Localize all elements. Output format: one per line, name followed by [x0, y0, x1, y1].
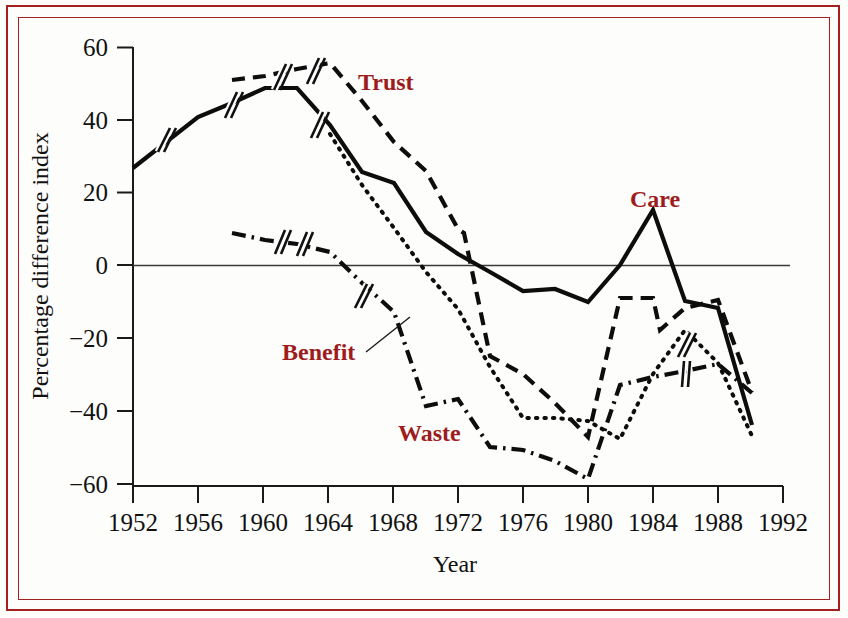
series-label-trust: Trust — [358, 69, 414, 95]
axis-break-marks — [158, 58, 696, 387]
x-tick-label: 1980 — [563, 509, 613, 536]
y-tick-label: −40 — [69, 398, 108, 425]
y-axis — [117, 47, 133, 486]
series-line-waste — [330, 134, 752, 439]
x-tick-label: 1960 — [238, 509, 288, 536]
y-tick-label: 40 — [83, 107, 108, 134]
x-axis — [133, 486, 783, 503]
y-tick-label: 60 — [83, 34, 108, 61]
series-label-care: Care — [630, 186, 681, 212]
x-tick-label: 1952 — [108, 509, 158, 536]
x-axis-title: Year — [433, 551, 477, 577]
break-mark-icon — [682, 361, 690, 387]
chart-plot-area: 60 40 20 0 −20 −40 −60 — [0, 0, 848, 618]
y-tick-label: 20 — [83, 179, 108, 206]
break-mark-icon — [297, 232, 313, 256]
break-mark-icon — [311, 112, 329, 138]
break-mark-icon — [355, 284, 373, 308]
x-tick-label: 1988 — [693, 509, 743, 536]
y-axis-title: Percentage difference index — [27, 132, 53, 399]
y-tick-label: 0 — [96, 252, 109, 279]
series-label-waste: Waste — [398, 420, 461, 446]
break-mark-icon — [158, 128, 176, 152]
x-tick-label: 1992 — [758, 509, 808, 536]
x-axis-tick-labels: 1952 1956 1960 1964 1968 1972 1976 1980 … — [108, 509, 808, 536]
y-tick-label: −60 — [69, 471, 108, 498]
x-tick-label: 1976 — [498, 509, 548, 536]
series-line-care — [133, 88, 752, 425]
break-mark-icon — [678, 333, 696, 357]
x-tick-label: 1968 — [368, 509, 418, 536]
x-tick-label: 1984 — [628, 509, 679, 536]
series-line-trust — [232, 63, 752, 437]
x-tick-label: 1964 — [303, 509, 354, 536]
break-mark-icon — [225, 92, 243, 118]
x-tick-label: 1956 — [173, 509, 223, 536]
series-label-benefit: Benefit — [282, 339, 355, 365]
break-mark-icon — [307, 58, 325, 84]
y-axis-tick-labels: 60 40 20 0 −20 −40 −60 — [69, 34, 108, 498]
figure-page: 60 40 20 0 −20 −40 −60 — [0, 0, 848, 618]
x-tick-label: 1972 — [433, 509, 483, 536]
y-tick-label: −20 — [69, 325, 108, 352]
